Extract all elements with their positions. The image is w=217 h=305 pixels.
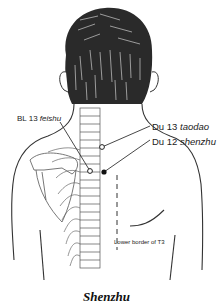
point-bl13: [88, 169, 93, 174]
head-hair: [65, 8, 152, 104]
label-bl13: BL 13 feishu: [17, 114, 61, 123]
left-scapula: [30, 153, 78, 222]
spine: [80, 108, 100, 268]
label-lower-border-t3: Lower border of T3: [114, 239, 165, 245]
figure-caption: Shenzhu: [0, 289, 213, 305]
right-ear: [150, 72, 158, 92]
label-du12: Du 12 shenzhu: [152, 136, 216, 147]
label-du13: Du 13 taodao: [152, 121, 209, 132]
point-du13: [100, 145, 105, 150]
ribs: [48, 148, 80, 266]
point-du12: [101, 169, 106, 174]
leader-lines: [60, 122, 150, 172]
